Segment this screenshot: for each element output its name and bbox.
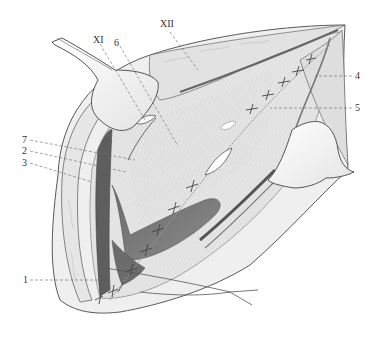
label-5: 5 bbox=[355, 103, 360, 113]
label-4: 4 bbox=[355, 71, 360, 81]
label-xi: XI bbox=[93, 35, 104, 45]
label-6: 6 bbox=[114, 38, 119, 48]
label-xii: XII bbox=[160, 19, 174, 29]
label-1: 1 bbox=[23, 275, 28, 285]
dark-muscle-left bbox=[96, 130, 112, 296]
illustration-canvas bbox=[0, 0, 384, 341]
label-7: 7 bbox=[22, 135, 27, 145]
surgical-illustration: XI 6 XII 4 5 7 2 3 1 bbox=[0, 0, 384, 341]
label-2: 2 bbox=[22, 146, 27, 156]
retractor-upper-left bbox=[52, 38, 158, 130]
label-3: 3 bbox=[22, 158, 27, 168]
